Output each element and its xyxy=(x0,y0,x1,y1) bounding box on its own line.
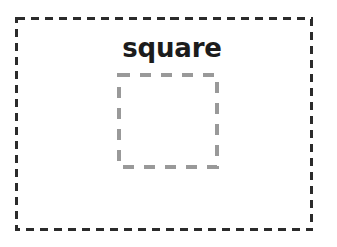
square-shape[interactable] xyxy=(117,73,219,169)
annotation-canvas: square xyxy=(0,0,337,247)
square-shape-rect[interactable] xyxy=(119,75,217,167)
square-shape-svg xyxy=(117,73,219,169)
shape-label: square xyxy=(116,34,228,62)
